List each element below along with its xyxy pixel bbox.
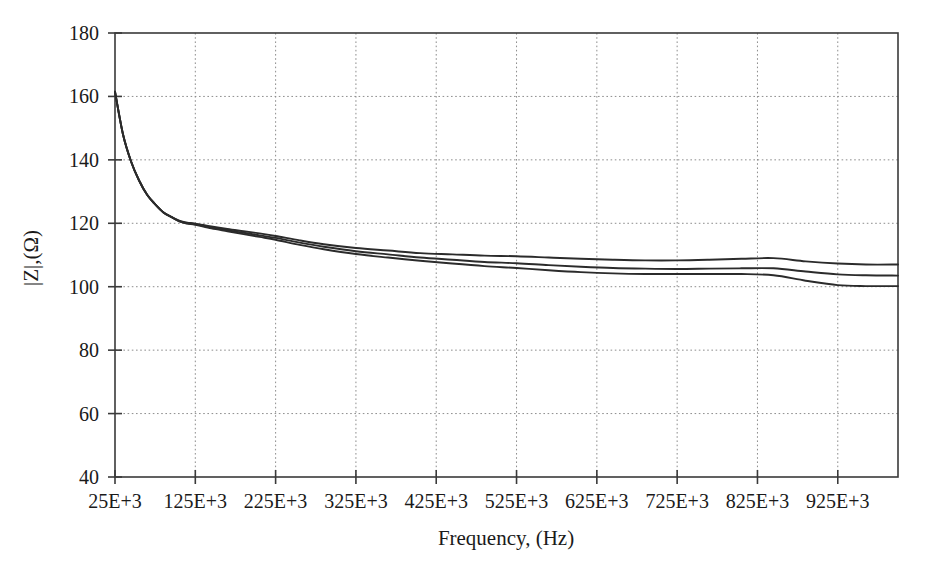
- tick-label-y: 80: [79, 339, 99, 361]
- tick-label-y: 160: [69, 85, 99, 107]
- data-curves: [115, 92, 898, 286]
- plot-border: [115, 33, 898, 477]
- tick-label-y: 60: [79, 403, 99, 425]
- y-axis-tick-labels: 406080100120140160180: [69, 22, 99, 488]
- plot-frame: [115, 33, 898, 477]
- tick-label-y: 100: [69, 276, 99, 298]
- tick-label-x: 925E+3: [806, 490, 870, 512]
- tick-label-x: 825E+3: [726, 490, 790, 512]
- chart-figure: 406080100120140160180 25E+3125E+3225E+33…: [0, 0, 932, 573]
- vertical-gridlines: [195, 33, 837, 477]
- impedance-magnitude-chart: 406080100120140160180 25E+3125E+3225E+33…: [0, 0, 932, 573]
- tick-label-x: 225E+3: [244, 490, 308, 512]
- tick-label-x: 425E+3: [404, 490, 468, 512]
- tick-label-y: 140: [69, 149, 99, 171]
- tick-label-y: 180: [69, 22, 99, 44]
- data-curve-trace-1: [115, 92, 898, 265]
- tick-label-x: 125E+3: [164, 490, 228, 512]
- horizontal-gridlines: [115, 96, 898, 413]
- tick-label-y: 120: [69, 212, 99, 234]
- x-axis-title: Frequency, (Hz): [438, 526, 574, 550]
- tick-label-x: 725E+3: [645, 490, 709, 512]
- y-axis-title: |Z|,(Ω): [19, 230, 43, 286]
- x-axis-tick-labels: 25E+3125E+3225E+3325E+3425E+3525E+3625E+…: [88, 490, 869, 512]
- tick-label-y: 40: [79, 466, 99, 488]
- data-curve-trace-2: [115, 92, 898, 276]
- tick-label-x: 325E+3: [324, 490, 388, 512]
- tick-label-x: 525E+3: [485, 490, 549, 512]
- tick-label-x: 25E+3: [88, 490, 142, 512]
- tick-label-x: 625E+3: [565, 490, 629, 512]
